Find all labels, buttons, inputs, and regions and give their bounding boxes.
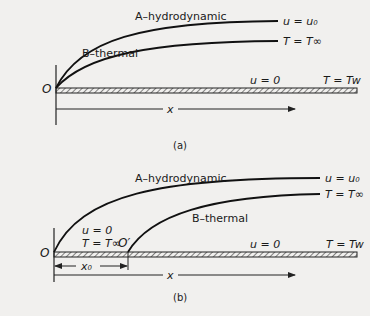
- label-b-u0: u = u₀: [325, 172, 360, 185]
- boundary-layer-diagram: A–hydrodynamic B–thermal u = u₀ T = T∞ u…: [0, 0, 370, 316]
- label-a-hydro: A–hydrodynamic: [135, 10, 227, 23]
- label-a-wall-u: u = 0: [250, 74, 280, 87]
- label-b-hydro: A–hydrodynamic: [135, 172, 227, 185]
- label-a-origin: O: [42, 82, 51, 96]
- figure-b: A–hydrodynamic B–thermal u = u₀ T = T∞ u…: [40, 172, 364, 303]
- label-b-x: x: [166, 269, 174, 282]
- label-a-thermal: B–thermal: [82, 47, 138, 60]
- label-b-tinf: T = T∞: [325, 188, 364, 201]
- plate-b: [54, 252, 357, 257]
- label-a-tinf: T = T∞: [283, 35, 322, 48]
- label-b-thermal: B–thermal: [192, 212, 248, 225]
- label-b-unheated-u: u = 0: [82, 224, 112, 237]
- figure-a: A–hydrodynamic B–thermal u = u₀ T = T∞ u…: [42, 10, 361, 151]
- label-b-x0: x₀: [80, 260, 93, 273]
- label-b-unheated-t: T = T∞: [82, 237, 121, 250]
- label-a-x: x: [166, 103, 174, 116]
- label-b-origin: O: [40, 246, 49, 260]
- plate-a: [56, 88, 357, 93]
- caption-a: (a): [173, 140, 187, 151]
- label-b-wall-t: T = Tw: [326, 238, 364, 251]
- label-b-wall-u: u = 0: [250, 238, 280, 251]
- caption-b: (b): [173, 292, 187, 303]
- label-b-origin-prime: O′: [118, 236, 130, 250]
- label-a-wall-t: T = Tw: [323, 74, 361, 87]
- label-a-u0: u = u₀: [283, 15, 318, 28]
